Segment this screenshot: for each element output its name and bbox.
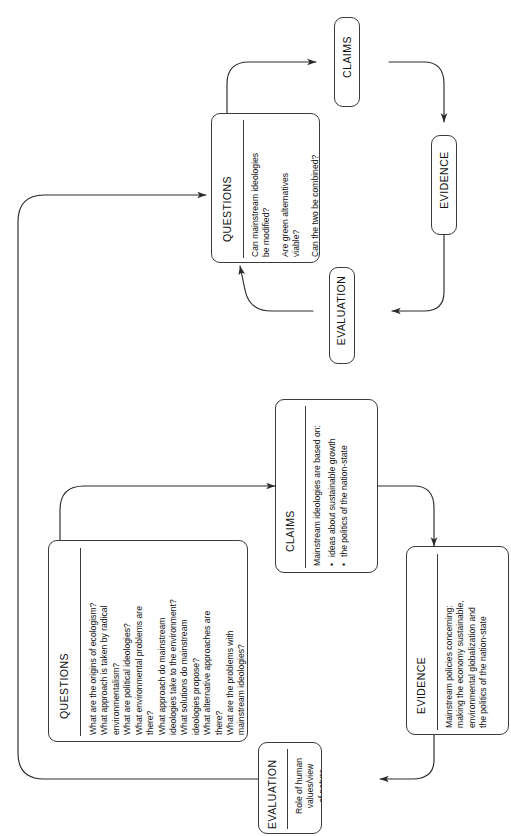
node-evaluation-bottom[interactable]: EVALUATION Role of human values/view of … [258, 742, 322, 834]
node-claims-top[interactable]: CLAIMS [334, 17, 360, 107]
node-body-line: Are green alternatives viable? [280, 121, 303, 257]
wire-evaluation-to-questions-top [240, 266, 313, 311]
node-title: QUESTIONS [58, 543, 70, 719]
node-body: Mainstream ideologies are based on: idea… [312, 402, 350, 566]
node-title: EVALUATION [335, 267, 347, 354]
node-divider [305, 406, 306, 568]
node-title: EVIDENCE [415, 549, 427, 714]
node-title: EVIDENCE [438, 135, 450, 225]
wire-evidence-to-evaluation-bottom [380, 735, 434, 779]
node-divider [437, 554, 438, 730]
list-item: the politics of the nation-state [339, 402, 350, 566]
node-evidence-bottom[interactable]: EVIDENCE Mainstream policies concerning:… [406, 546, 509, 735]
node-divider [243, 120, 244, 258]
claims-intro: Mainstream ideologies are based on: [312, 402, 323, 566]
node-questions-top[interactable]: QUESTIONS Can mainstream ideologies be m… [211, 113, 320, 263]
list-item: ideas about sustainable growth [327, 402, 338, 566]
node-divider [287, 749, 288, 829]
claims-bullet-list: ideas about sustainable growth the polit… [327, 402, 350, 566]
node-body-line: Role of human values/view of nature [294, 745, 322, 827]
wire-evidence-to-evaluation-top [392, 235, 444, 311]
node-title: CLAIMS [341, 17, 353, 97]
node-body: Mainstream policies concerning: making t… [444, 550, 490, 728]
node-body: Role of human values/view of nature [294, 745, 322, 827]
wire-questions-to-claims-top [227, 62, 316, 113]
node-body-line: Can the two be combined? [310, 121, 320, 257]
node-title: EVALUATION [266, 743, 278, 829]
node-body-line: What are the origins of ecologism? What … [88, 545, 248, 735]
node-questions-bottom[interactable]: QUESTIONS What are the origins of ecolog… [48, 540, 248, 742]
node-divider [80, 548, 81, 736]
diagram-canvas: QUESTIONS Can mainstream ideologies be m… [0, 0, 511, 836]
node-evaluation-top[interactable]: EVALUATION [329, 267, 355, 364]
wire-claims-to-evidence-bottom [378, 486, 434, 546]
node-body: What are the origins of ecologism? What … [88, 545, 248, 735]
node-title: QUESTIONS [221, 122, 233, 242]
node-evidence-top[interactable]: EVIDENCE [431, 135, 457, 235]
node-title: CLAIMS [284, 402, 296, 552]
node-body-line: Mainstream policies concerning: making t… [444, 550, 490, 728]
wire-claims-to-evidence-top [389, 62, 444, 122]
node-body: Can mainstream ideologies be modified? A… [250, 121, 320, 257]
wire-questions-to-claims-bottom [60, 486, 275, 540]
node-claims-bottom[interactable]: CLAIMS Mainstream ideologies are based o… [275, 399, 378, 573]
node-body-line: Can mainstream ideologies be modified? [250, 121, 273, 257]
